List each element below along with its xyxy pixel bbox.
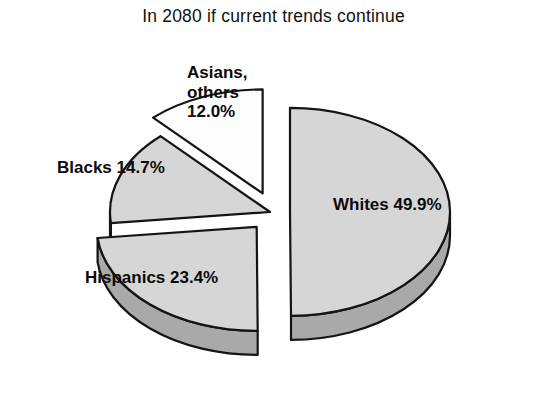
slice-label-blacks: Blacks 14.7% xyxy=(57,158,165,178)
pie-chart-figure: In 2080 if current trends continue White… xyxy=(0,0,547,404)
slice-label-whites: Whites 49.9% xyxy=(333,195,442,215)
slice-label-hispanics: Hispanics 23.4% xyxy=(85,268,218,288)
pie-chart-graphic xyxy=(0,0,547,404)
slice-label-asians-others: Asians, others 12.0% xyxy=(187,63,247,122)
